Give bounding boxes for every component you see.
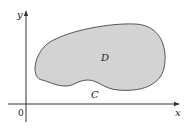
origin-label: 0 [18, 108, 24, 118]
diagram-canvas: y x 0 D C [0, 0, 194, 130]
region-label-d: D [100, 52, 109, 63]
curve-label-c: C [91, 89, 99, 100]
y-axis-label: y [16, 9, 23, 20]
x-axis-label: x [175, 107, 181, 118]
